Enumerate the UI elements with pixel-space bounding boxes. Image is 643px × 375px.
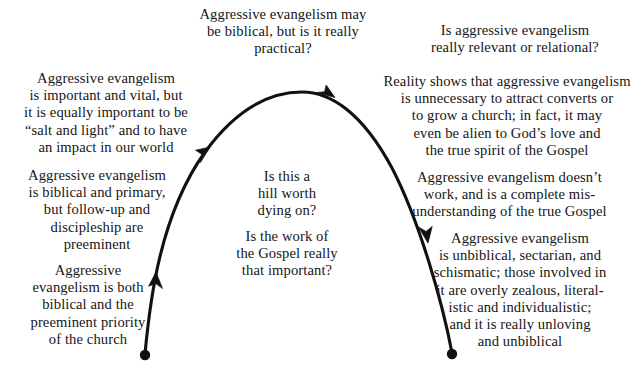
arc-endpoint-dot-left bbox=[140, 350, 150, 360]
arrowhead-apex-right bbox=[317, 85, 336, 98]
annotation-left-middle: Aggressive evangelism is biblical and pr… bbox=[2, 167, 192, 253]
annotation-left-lower: Aggressive evangelism is both biblical a… bbox=[2, 262, 174, 348]
annotation-top-right: Is aggressive evangelism really relevant… bbox=[390, 22, 640, 56]
annotation-left-upper: Aggressive evangelism is important and v… bbox=[6, 70, 206, 156]
diagram-canvas: Aggressive evangelism may be biblical, b… bbox=[0, 0, 643, 375]
annotation-right-middle: Aggressive evangelism doesn’t work, and … bbox=[378, 169, 641, 221]
annotation-center-upper: Is this a hill worth dying on? bbox=[222, 168, 352, 220]
annotation-center-lower: Is the work of the Gospel really that im… bbox=[212, 228, 362, 280]
annotation-right-lower: Aggressive evangelism is unbiblical, sec… bbox=[400, 230, 640, 351]
annotation-right-upper: Reality shows that aggressive evangelism… bbox=[372, 73, 642, 159]
annotation-top-center: Aggressive evangelism may be biblical, b… bbox=[168, 6, 398, 58]
